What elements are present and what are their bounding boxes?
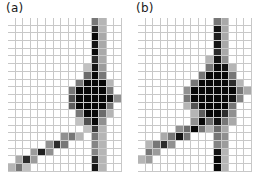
heatmap-cell xyxy=(244,164,252,172)
heatmap-cell xyxy=(84,56,92,64)
heatmap-cell xyxy=(84,164,92,172)
heatmap-cell xyxy=(54,110,62,118)
heatmap-cell xyxy=(114,80,122,88)
heatmap-cell xyxy=(199,103,207,111)
heatmap-cell xyxy=(16,103,24,111)
heatmap-cell xyxy=(69,118,77,126)
heatmap-cell xyxy=(199,72,207,80)
heatmap-cell xyxy=(214,72,222,80)
heatmap-cell xyxy=(114,18,122,26)
heatmap-cell xyxy=(114,118,122,126)
heatmap-cell xyxy=(206,26,214,34)
heatmap-cell xyxy=(92,72,100,80)
heatmap-cell xyxy=(114,95,122,103)
heatmap-cell xyxy=(229,126,237,134)
heatmap-cell xyxy=(222,118,230,126)
heatmap-cell xyxy=(54,26,62,34)
heatmap-cell xyxy=(16,149,24,157)
heatmap-cell xyxy=(184,164,192,172)
heatmap-cell xyxy=(206,164,214,172)
heatmap-cell xyxy=(84,118,92,126)
heatmap-cell xyxy=(184,118,192,126)
heatmap-cell xyxy=(244,126,252,134)
heatmap-cell xyxy=(114,56,122,64)
heatmap-cell xyxy=(38,87,46,95)
heatmap-cell xyxy=(153,103,161,111)
heatmap-cell xyxy=(8,141,16,149)
heatmap-cell xyxy=(99,56,107,64)
heatmap-cell xyxy=(8,18,16,26)
panel-b-heatmap-grid xyxy=(138,18,252,172)
heatmap-cell xyxy=(76,87,84,95)
heatmap-cell xyxy=(54,80,62,88)
heatmap-cell xyxy=(23,141,31,149)
heatmap-cell xyxy=(191,64,199,72)
heatmap-cell xyxy=(214,41,222,49)
heatmap-cell xyxy=(153,49,161,57)
heatmap-cell xyxy=(23,110,31,118)
heatmap-cell xyxy=(84,156,92,164)
heatmap-cell xyxy=(84,126,92,134)
heatmap-cell xyxy=(46,72,54,80)
heatmap-cell xyxy=(184,64,192,72)
heatmap-cell xyxy=(146,141,154,149)
heatmap-cell xyxy=(229,26,237,34)
heatmap-cell xyxy=(244,141,252,149)
heatmap-cell xyxy=(38,110,46,118)
heatmap-cell xyxy=(23,156,31,164)
heatmap-cell xyxy=(168,149,176,157)
heatmap-cell xyxy=(46,87,54,95)
heatmap-cell xyxy=(184,72,192,80)
heatmap-cell xyxy=(23,80,31,88)
heatmap-cell xyxy=(244,41,252,49)
heatmap-cell xyxy=(229,18,237,26)
heatmap-cell xyxy=(229,110,237,118)
heatmap-cell xyxy=(176,80,184,88)
heatmap-cell xyxy=(31,141,39,149)
heatmap-cell xyxy=(8,149,16,157)
heatmap-cell xyxy=(222,95,230,103)
heatmap-cell xyxy=(222,33,230,41)
heatmap-cell xyxy=(244,80,252,88)
heatmap-cell xyxy=(46,18,54,26)
heatmap-cell xyxy=(168,49,176,57)
heatmap-cell xyxy=(61,41,69,49)
heatmap-cell xyxy=(61,56,69,64)
heatmap-cell xyxy=(23,18,31,26)
heatmap-cell xyxy=(153,56,161,64)
heatmap-cell xyxy=(99,133,107,141)
heatmap-cell xyxy=(23,95,31,103)
heatmap-cell xyxy=(114,49,122,57)
heatmap-cell xyxy=(16,133,24,141)
heatmap-cell xyxy=(99,87,107,95)
heatmap-cell xyxy=(161,72,169,80)
heatmap-cell xyxy=(54,103,62,111)
heatmap-cell xyxy=(184,103,192,111)
heatmap-cell xyxy=(184,87,192,95)
heatmap-cell xyxy=(99,95,107,103)
heatmap-cell xyxy=(244,95,252,103)
heatmap-cell xyxy=(92,56,100,64)
heatmap-cell xyxy=(38,26,46,34)
heatmap-cell xyxy=(31,33,39,41)
heatmap-cell xyxy=(153,164,161,172)
heatmap-cell xyxy=(244,149,252,157)
heatmap-cell xyxy=(8,103,16,111)
heatmap-cell xyxy=(191,126,199,134)
heatmap-cell xyxy=(76,164,84,172)
heatmap-cell xyxy=(61,149,69,157)
heatmap-cell xyxy=(237,49,245,57)
heatmap-cell xyxy=(8,87,16,95)
heatmap-cell xyxy=(99,41,107,49)
heatmap-cell xyxy=(61,141,69,149)
heatmap-cell xyxy=(168,110,176,118)
heatmap-cell xyxy=(199,95,207,103)
heatmap-cell xyxy=(206,141,214,149)
heatmap-cell xyxy=(206,33,214,41)
heatmap-cell xyxy=(222,41,230,49)
heatmap-cell xyxy=(46,110,54,118)
heatmap-cell xyxy=(146,72,154,80)
heatmap-cell xyxy=(199,110,207,118)
heatmap-cell xyxy=(168,80,176,88)
heatmap-cell xyxy=(23,49,31,57)
